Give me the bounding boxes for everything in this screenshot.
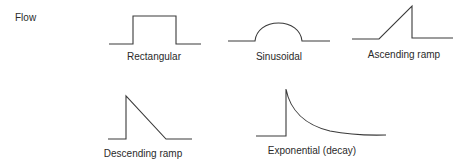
exponential-decay-label: Exponential (decay)	[268, 145, 356, 156]
waveform-diagram	[0, 0, 464, 164]
exponential-decay-waveform	[256, 89, 386, 136]
descending-ramp-waveform	[108, 96, 192, 139]
ascending-ramp-label: Ascending ramp	[368, 49, 440, 60]
sinusoidal-label: Sinusoidal	[256, 51, 302, 62]
rectangular-waveform	[109, 16, 201, 44]
ascending-ramp-waveform	[352, 6, 453, 39]
descending-ramp-label: Descending ramp	[104, 148, 182, 159]
sinusoidal-waveform	[228, 23, 330, 41]
rectangular-label: Rectangular	[127, 51, 181, 62]
